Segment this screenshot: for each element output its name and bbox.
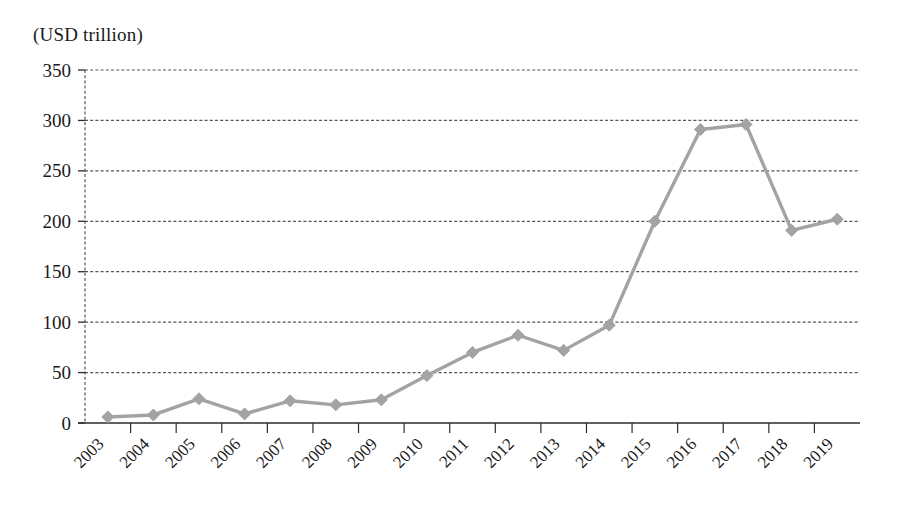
x-axis-tick-label: 2004 bbox=[116, 434, 154, 472]
y-axis-tick-label: 50 bbox=[52, 362, 71, 383]
data-series-group bbox=[102, 118, 843, 422]
data-point-marker bbox=[649, 215, 661, 227]
data-point-marker bbox=[467, 346, 479, 358]
data-point-marker bbox=[831, 213, 843, 225]
x-axis-tick-label: 2008 bbox=[298, 434, 335, 471]
x-axis-tick-label: 2009 bbox=[344, 434, 381, 471]
y-axis-tick-label: 100 bbox=[43, 312, 72, 333]
y-axis-tick-labels: 050100150200250300350 bbox=[43, 60, 72, 434]
data-point-marker bbox=[239, 408, 251, 420]
data-point-marker bbox=[330, 399, 342, 411]
data-point-marker bbox=[375, 394, 387, 406]
data-point-marker bbox=[512, 329, 524, 341]
y-axis-tick-label: 350 bbox=[43, 60, 72, 81]
y-axis-tick-label: 200 bbox=[43, 211, 72, 232]
x-axis-tick-label: 2011 bbox=[435, 434, 472, 471]
y-axis-tick-label: 250 bbox=[43, 160, 72, 181]
x-axis-tick-label: 2016 bbox=[663, 434, 700, 471]
line-chart-plot: 050100150200250300350 200320042005200620… bbox=[0, 0, 901, 526]
x-axis-tick-labels: 2003200420052006200720082009201020112012… bbox=[70, 434, 837, 472]
x-axis-tick-label: 2014 bbox=[572, 434, 610, 472]
x-axis-tick-label: 2019 bbox=[800, 434, 837, 471]
data-point-marker bbox=[102, 411, 114, 423]
data-point-marker bbox=[193, 393, 205, 405]
data-point-marker bbox=[694, 124, 706, 136]
x-axis-tick-label: 2018 bbox=[754, 434, 791, 471]
x-axis bbox=[78, 423, 860, 433]
x-axis-tick-label: 2006 bbox=[207, 434, 244, 471]
data-point-marker bbox=[421, 370, 433, 382]
x-axis-tick-label: 2003 bbox=[70, 434, 107, 471]
data-point-marker bbox=[284, 395, 296, 407]
data-point-marker bbox=[786, 224, 798, 236]
gridlines-group bbox=[85, 70, 860, 373]
chart-container: (USD trillion) 050100150200250300350 200… bbox=[0, 0, 901, 526]
x-axis-tick-label: 2013 bbox=[526, 434, 563, 471]
x-axis-tick-label: 2007 bbox=[252, 434, 290, 472]
x-axis-tick-label: 2005 bbox=[161, 434, 198, 471]
y-axis-tick-label: 300 bbox=[43, 110, 72, 131]
x-axis-tick-label: 2010 bbox=[389, 434, 426, 471]
x-axis-tick-label: 2017 bbox=[708, 434, 746, 472]
y-axis-tick-label: 0 bbox=[62, 413, 72, 434]
y-axis bbox=[78, 70, 85, 423]
x-axis-tick-label: 2012 bbox=[480, 434, 517, 471]
data-point-marker bbox=[147, 409, 159, 421]
x-axis-tick-label: 2015 bbox=[617, 434, 654, 471]
y-axis-tick-label: 150 bbox=[43, 261, 72, 282]
